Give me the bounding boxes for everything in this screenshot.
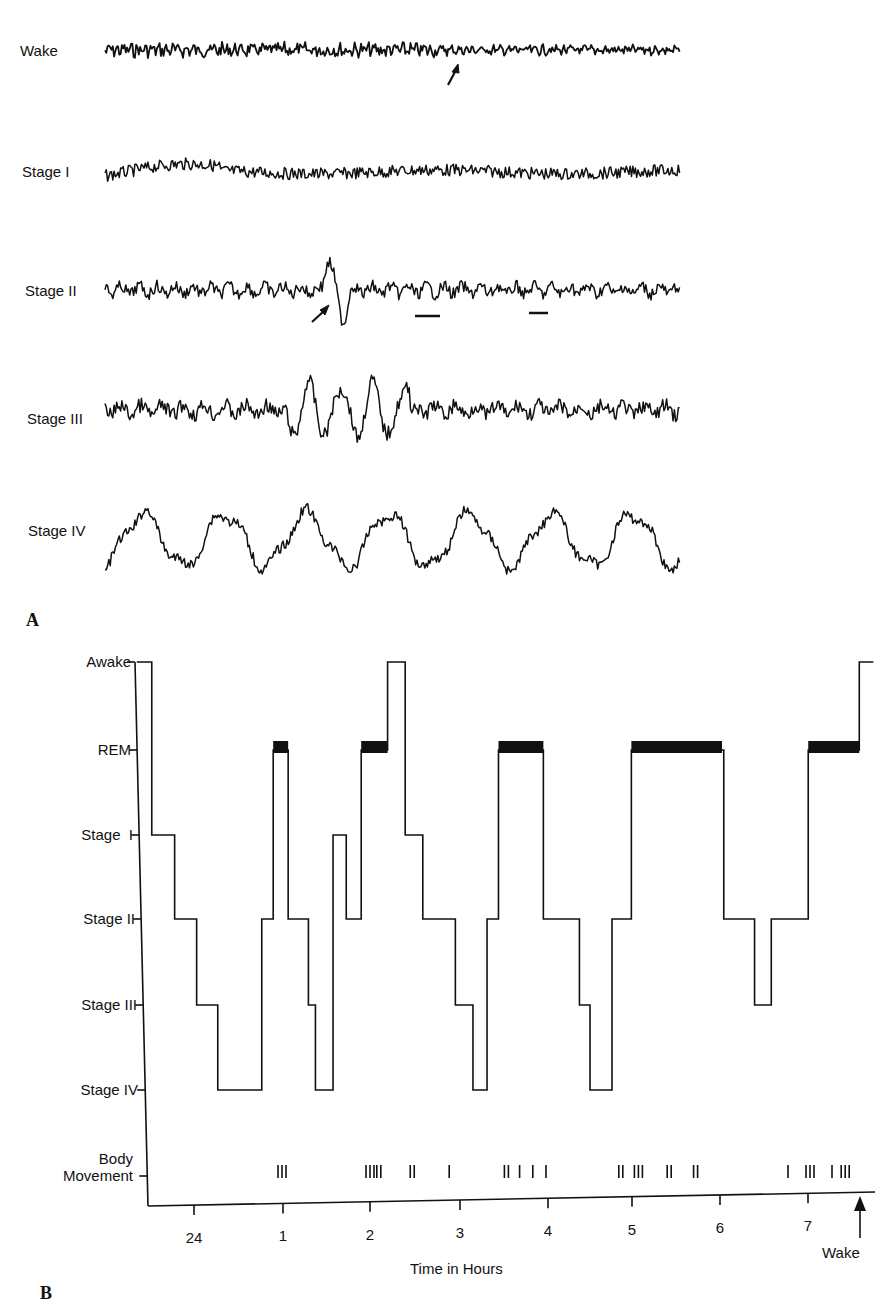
x-tick-label: 24: [174, 1229, 214, 1246]
y-label-stage-1: Stage I: [81, 826, 133, 843]
body-movement-marks: [278, 1165, 849, 1178]
eeg-trace-0: [105, 42, 680, 58]
x-axis-title: Time in Hours: [410, 1260, 503, 1277]
x-tick-label: 4: [528, 1222, 568, 1239]
x-tick-label: 5: [612, 1221, 652, 1238]
rem-period-block: [273, 741, 288, 753]
eeg-annotations: [312, 64, 548, 322]
figure-canvas: [0, 0, 895, 1310]
y-label-awake: Awake: [86, 653, 131, 670]
x-tick-label: 3: [440, 1224, 480, 1241]
eeg-trace-4: [105, 504, 680, 574]
eeg-trace-1: [105, 158, 680, 181]
rem-period-block: [631, 741, 722, 753]
rem-period-block: [361, 741, 387, 753]
y-label-rem: REM: [98, 741, 131, 758]
x-axis: [148, 1192, 875, 1206]
y-label-stage-4: Stage IV: [80, 1081, 138, 1098]
y-label-stage-2: Stage II: [83, 910, 135, 927]
y-label-body-movement: Body Movement: [63, 1150, 133, 1184]
x-tick-label: 1: [263, 1227, 303, 1244]
rem-period-block: [808, 741, 859, 753]
x-tick-label: 6: [700, 1219, 740, 1236]
eeg-trace-3: [105, 375, 680, 442]
y-label-movement: Movement: [63, 1167, 133, 1184]
wake-arrow-icon: [854, 1196, 866, 1238]
x-tick-label: 7: [788, 1217, 828, 1234]
hypnogram-line: [137, 662, 874, 1090]
wake-marker-label: Wake: [822, 1244, 860, 1261]
arrow-head-icon: [452, 64, 459, 73]
rem-period-block: [498, 741, 543, 753]
x-tick-label: 2: [350, 1226, 390, 1243]
y-axis: [135, 662, 148, 1206]
panel-letter-b: B: [40, 1283, 52, 1304]
y-label-body: Body: [63, 1150, 133, 1167]
eeg-traces: [105, 42, 680, 574]
eeg-trace-2: [105, 258, 680, 326]
y-label-stage-3: Stage III: [81, 996, 137, 1013]
